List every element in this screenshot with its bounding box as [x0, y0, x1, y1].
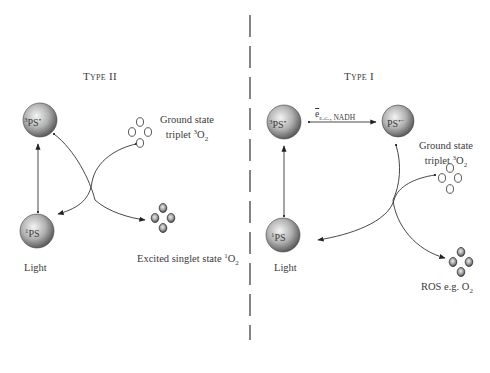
type2-title: Type II — [83, 70, 117, 82]
type2-light-label: Light — [24, 262, 47, 274]
type1-ros-label: ROS e.g. O2 — [421, 281, 473, 297]
type1-ground-singlet-ps-label: 1PS — [271, 229, 286, 244]
type1-ros-group — [449, 248, 473, 277]
photodynamic-mechanism-diagram: Type II 3PS• 1PS Light Ground state trip… — [0, 0, 490, 373]
type2-excited-triplet-ps-label: 3PS• — [24, 114, 41, 129]
type2-excited-singlet-label: Excited singlet state 1O2 — [137, 250, 239, 269]
type2-ground-state-label: Ground state triplet 3O2 — [158, 114, 216, 145]
type1-light-label: Light — [274, 262, 297, 274]
type1-title: Type I — [344, 70, 374, 82]
type2-ground-singlet-ps-label: 1PS — [25, 225, 40, 240]
type1-radical-ps-label: PS•− — [387, 115, 405, 130]
type2-return-curve — [58, 144, 136, 214]
type1-return-curve — [318, 175, 435, 240]
type2-triplet-oxygen-group — [129, 118, 152, 148]
diagram-graphics — [0, 0, 490, 373]
type1-ground-state-label: Ground state triplet 3O2 — [415, 140, 477, 171]
type1-electron-donor-label: ee.g., NADH — [315, 108, 355, 124]
type2-singlet-oxygen-group — [151, 204, 175, 233]
type2-energy-transfer-curve — [54, 134, 145, 220]
type1-excited-triplet-ps-label: 3PS• — [269, 116, 286, 131]
